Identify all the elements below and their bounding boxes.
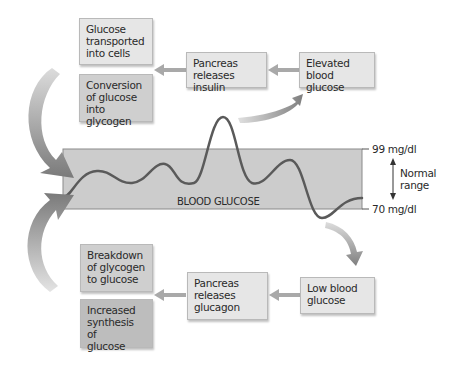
box-text: Conversion bbox=[86, 79, 146, 91]
box-text: glucose bbox=[307, 294, 368, 306]
box-text: of glucose bbox=[86, 91, 146, 103]
box-text: Low blood bbox=[307, 282, 368, 294]
box-text: Pancreas bbox=[193, 57, 260, 69]
box-text: Breakdown bbox=[87, 249, 146, 261]
arrow-low-to-pancreas-icon bbox=[269, 289, 300, 301]
pancreas-releases-insulin-box: Pancreas releases insulin bbox=[186, 52, 267, 88]
box-text: Glucose bbox=[86, 23, 146, 35]
glucose-transported-box: Glucose transported into cells bbox=[79, 18, 153, 65]
range-double-arrow-icon bbox=[390, 158, 396, 200]
low-blood-glucose-box: Low blood glucose bbox=[300, 277, 375, 314]
box-text: of glycogen bbox=[87, 261, 146, 273]
elevated-blood-glucose-box: Elevated blood glucose bbox=[299, 52, 375, 88]
blood-glucose-label: BLOOD GLUCOSE bbox=[177, 196, 259, 208]
box-text: into cells bbox=[86, 47, 146, 59]
lower-limit-label: 70 mg/dl bbox=[372, 203, 416, 215]
arrow-pancreas-to-breakdown-icon bbox=[154, 289, 186, 301]
box-text: synthesis of bbox=[87, 316, 146, 340]
box-text: Pancreas bbox=[194, 277, 261, 289]
normal-range-label-line2: range bbox=[400, 179, 429, 191]
curved-arrow-to-low-icon bbox=[325, 222, 363, 266]
box-text: releases insulin bbox=[193, 69, 260, 93]
arrow-elevated-to-pancreas-icon bbox=[268, 64, 299, 76]
normal-range-label-line1: Normal bbox=[400, 167, 436, 179]
increased-synthesis-box: Increased synthesis of glucose bbox=[80, 299, 153, 348]
conversion-to-glycogen-box: Conversion of glucose into glycogen bbox=[79, 74, 153, 122]
upper-limit-label: 99 mg/dl bbox=[372, 143, 416, 155]
curved-arrow-to-elevated-icon bbox=[238, 94, 303, 123]
box-text: Increased bbox=[87, 304, 146, 316]
box-text: glucagon bbox=[194, 301, 261, 313]
box-text: transported bbox=[86, 35, 146, 47]
pancreas-releases-glucagon-box: Pancreas releases glucagon bbox=[187, 272, 268, 320]
box-text: glucose bbox=[87, 340, 146, 352]
box-text: to glucose bbox=[87, 273, 146, 285]
box-text: into glycogen bbox=[86, 103, 146, 127]
box-text: blood glucose bbox=[306, 69, 368, 93]
arrow-pancreas-to-effects-icon bbox=[154, 64, 186, 76]
box-text: releases bbox=[194, 289, 261, 301]
breakdown-of-glycogen-box: Breakdown of glycogen to glucose bbox=[80, 244, 153, 292]
box-text: Elevated bbox=[306, 57, 368, 69]
